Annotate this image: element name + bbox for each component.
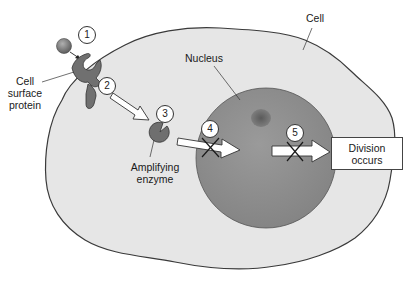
step-number: 2 <box>104 80 110 91</box>
step-marker-2: 2 <box>98 77 116 95</box>
step-marker-5: 5 <box>286 124 304 142</box>
signal-molecule <box>57 39 72 54</box>
step-marker-4: 4 <box>201 120 219 138</box>
label-line: protein <box>6 99 44 111</box>
cell-signaling-diagram: 1 2 3 4 5 Cell Nucleus Cell surface prot… <box>0 0 415 285</box>
label-amplifying-enzyme: Amplifying enzyme <box>127 161 183 185</box>
label-line: occurs <box>332 154 402 166</box>
step-number: 3 <box>162 108 168 119</box>
label-line: surface <box>6 87 44 99</box>
label-line: Amplifying <box>127 161 183 173</box>
step-marker-3: 3 <box>156 105 174 123</box>
step-marker-1: 1 <box>78 26 96 44</box>
step-number: 4 <box>207 123 213 134</box>
label-cell: Cell <box>306 12 324 24</box>
step-number: 1 <box>84 29 90 40</box>
nucleolus <box>251 109 271 127</box>
label-line: Cell <box>6 75 44 87</box>
label-line: Division <box>332 142 402 154</box>
label-line: enzyme <box>127 173 183 185</box>
division-occurs-box: Division occurs <box>331 137 403 170</box>
label-nucleus: Nucleus <box>185 52 223 64</box>
protein-leader-line <box>42 72 74 82</box>
label-cell-surface-protein: Cell surface protein <box>6 75 44 111</box>
step-number: 5 <box>292 127 298 138</box>
